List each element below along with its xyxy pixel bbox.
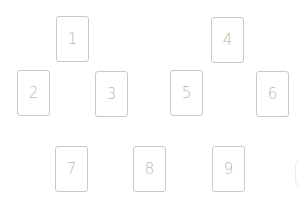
offscreen-element-edge bbox=[295, 158, 299, 188]
card-6[interactable]: 6 bbox=[256, 71, 289, 117]
card-label: 5 bbox=[182, 86, 192, 101]
card-4[interactable]: 4 bbox=[211, 17, 244, 63]
card-label: 4 bbox=[223, 33, 233, 48]
card-label: 7 bbox=[67, 162, 77, 177]
card-9[interactable]: 9 bbox=[212, 146, 245, 192]
card-label: 3 bbox=[107, 87, 117, 102]
card-2[interactable]: 2 bbox=[17, 70, 50, 116]
card-label: 6 bbox=[268, 87, 278, 102]
card-board: 1 2 3 4 5 6 7 8 9 bbox=[0, 0, 299, 203]
card-label: 9 bbox=[224, 162, 234, 177]
card-8[interactable]: 8 bbox=[133, 146, 166, 192]
card-5[interactable]: 5 bbox=[170, 70, 203, 116]
card-7[interactable]: 7 bbox=[55, 146, 88, 192]
card-1[interactable]: 1 bbox=[56, 16, 89, 62]
card-3[interactable]: 3 bbox=[95, 71, 128, 117]
card-label: 1 bbox=[68, 32, 78, 47]
card-label: 2 bbox=[29, 86, 39, 101]
card-label: 8 bbox=[145, 162, 155, 177]
